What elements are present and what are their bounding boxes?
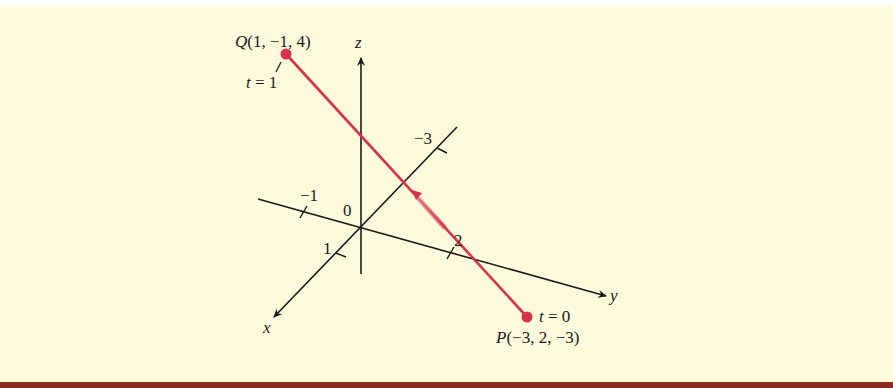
- tick-label-x-neg: −3: [414, 129, 432, 148]
- tick-x-pos: [336, 253, 346, 257]
- tick-label-y-pos: 2: [454, 231, 463, 250]
- line-segment-3d-diagram: z y x 0 −1 2 −3 1 Q(1, −1, 4) t = 1 t = …: [0, 0, 893, 388]
- tick-x-neg: [437, 148, 447, 153]
- origin-label: 0: [343, 201, 352, 220]
- x-axis-label: x: [262, 318, 271, 337]
- point-p-param: t = 0: [539, 307, 570, 326]
- t0-value: = 0: [544, 307, 571, 326]
- tick-label-y-neg: −1: [300, 186, 318, 205]
- t1-value: = 1: [251, 73, 278, 92]
- y-axis-label: y: [608, 286, 618, 305]
- point-q-label: Q(1, −1, 4): [235, 32, 311, 51]
- point-p-dot: [522, 312, 533, 323]
- x-axis: [274, 127, 457, 317]
- point-q-param: t = 1: [246, 73, 277, 92]
- z-axis-label: z: [354, 33, 362, 52]
- tick-label-x-pos: 1: [323, 239, 332, 258]
- point-p-label: P(−3, 2, −3): [495, 328, 579, 347]
- t1-leader: [276, 62, 281, 72]
